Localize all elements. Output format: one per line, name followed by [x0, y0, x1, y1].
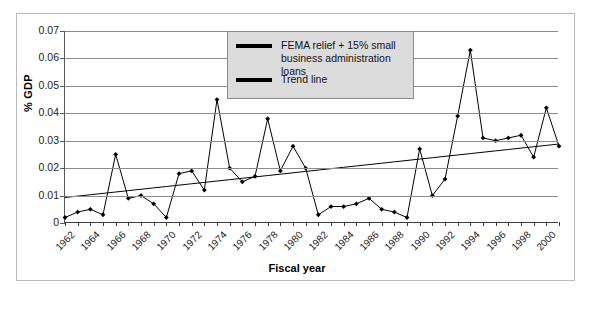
data-point-marker	[481, 136, 486, 141]
x-axis-tick	[217, 222, 218, 226]
x-axis-tick	[192, 222, 193, 226]
x-axis-tick	[78, 222, 79, 226]
x-axis-tick	[534, 222, 535, 226]
y-axis-tick	[60, 168, 65, 169]
data-point-marker	[417, 147, 422, 152]
y-axis-tick-label: 0.06	[7, 52, 59, 63]
x-axis-tick	[128, 222, 129, 226]
x-axis-tick	[306, 222, 307, 226]
legend-swatch-series	[236, 44, 272, 48]
data-point-marker	[405, 215, 410, 220]
gridline	[65, 168, 558, 169]
data-point-marker	[75, 210, 80, 215]
x-axis-tick	[230, 222, 231, 226]
data-point-marker	[265, 116, 270, 121]
y-axis-tick-label: 0	[7, 217, 59, 228]
x-axis-tick	[268, 222, 269, 226]
x-axis-tick	[470, 222, 471, 226]
legend-label-trend: Trend line	[281, 73, 327, 86]
x-axis-tick	[166, 222, 167, 226]
x-axis-tick	[344, 222, 345, 226]
data-point-marker	[88, 207, 93, 212]
data-point-marker	[544, 105, 549, 110]
data-point-marker	[278, 168, 283, 173]
y-axis-tick-label: 0.07	[7, 25, 59, 36]
y-axis-tick	[60, 58, 65, 59]
chart-figure: % GDP 00.010.020.030.040.050.060.0719621…	[0, 0, 594, 310]
y-axis-tick	[60, 113, 65, 114]
x-axis-tick	[559, 222, 560, 226]
y-axis-tick-label: 0.03	[7, 135, 59, 146]
y-axis-tick	[60, 31, 65, 32]
data-point-marker	[101, 212, 106, 217]
x-axis-tick	[496, 222, 497, 226]
series-line-trend	[65, 144, 559, 197]
x-axis-tick	[154, 222, 155, 226]
x-axis-tick	[204, 222, 205, 226]
x-axis-tick	[521, 222, 522, 226]
y-axis-tick	[60, 141, 65, 142]
data-point-marker	[531, 155, 536, 160]
data-point-marker	[126, 196, 131, 201]
x-axis-title: Fiscal year	[0, 262, 594, 274]
y-axis-tick-label: 0.01	[7, 190, 59, 201]
x-axis-tick	[293, 222, 294, 226]
x-axis-tick	[90, 222, 91, 226]
gridline	[65, 196, 558, 197]
x-axis-tick	[445, 222, 446, 226]
x-axis-tick	[242, 222, 243, 226]
data-point-marker	[506, 136, 511, 141]
x-axis-tick	[546, 222, 547, 226]
data-point-marker	[113, 152, 118, 157]
legend-entry-trend: Trend line	[236, 73, 327, 86]
x-axis-tick	[407, 222, 408, 226]
data-point-marker	[392, 210, 397, 215]
data-point-marker	[354, 201, 359, 206]
x-axis-tick	[116, 222, 117, 226]
x-axis-tick	[103, 222, 104, 226]
gridline	[65, 141, 558, 142]
x-axis-tick	[432, 222, 433, 226]
x-axis-tick	[420, 222, 421, 226]
data-point-marker	[468, 48, 473, 53]
x-axis-tick	[508, 222, 509, 226]
data-point-marker	[177, 171, 182, 176]
x-axis-tick	[318, 222, 319, 226]
gridline	[65, 113, 558, 114]
data-point-marker	[341, 204, 346, 209]
x-axis-tick	[141, 222, 142, 226]
data-point-marker	[291, 144, 296, 149]
x-axis-tick	[458, 222, 459, 226]
x-axis-tick	[331, 222, 332, 226]
x-axis-tick	[394, 222, 395, 226]
x-axis-tick	[280, 222, 281, 226]
x-axis-tick	[369, 222, 370, 226]
data-point-marker	[215, 97, 220, 102]
chart-legend: FEMA relief + 15% small business adminis…	[227, 31, 414, 99]
x-axis-tick	[356, 222, 357, 226]
x-axis-tick	[382, 222, 383, 226]
x-axis-tick	[179, 222, 180, 226]
y-axis-tick-label: 0.04	[7, 107, 59, 118]
data-point-marker	[63, 215, 68, 220]
x-axis-tick	[483, 222, 484, 226]
x-axis-tick	[255, 222, 256, 226]
legend-swatch-trend	[236, 78, 272, 82]
y-axis-tick	[60, 86, 65, 87]
data-point-marker	[455, 114, 460, 119]
data-point-marker	[519, 133, 524, 138]
x-axis-tick	[65, 222, 66, 226]
y-axis-tick-label: 0.05	[7, 80, 59, 91]
y-axis-tick	[60, 196, 65, 197]
y-axis-tick-label: 0.02	[7, 162, 59, 173]
